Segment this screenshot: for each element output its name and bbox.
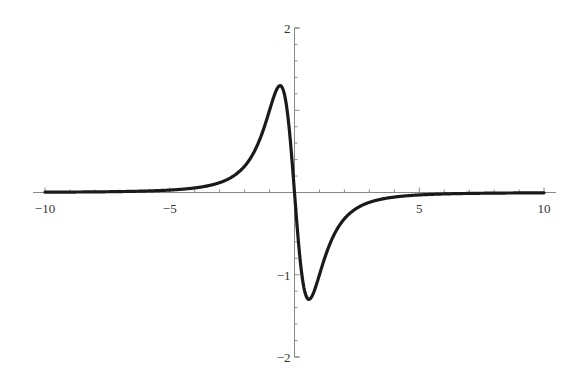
x-tick-label: −10: [35, 201, 55, 216]
x-tick-label: 5: [416, 201, 423, 216]
y-tick-label: 2: [284, 21, 291, 36]
chart-canvas: −10−5510−2−12: [0, 0, 580, 388]
y-tick-label: −2: [277, 350, 291, 365]
x-tick-label: 10: [538, 201, 551, 216]
x-tick-label: −5: [163, 201, 177, 216]
y-tick-label: −1: [277, 268, 291, 283]
